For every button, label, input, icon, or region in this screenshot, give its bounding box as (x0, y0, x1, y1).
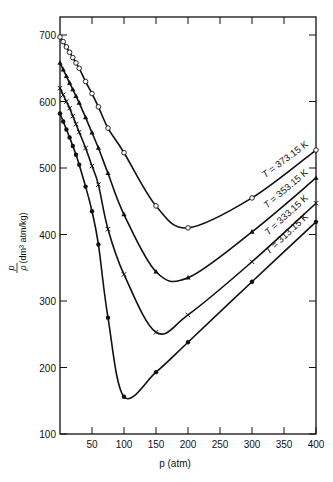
y-tick-label: 400 (39, 230, 56, 241)
x-axis-label: p (atm) (159, 458, 191, 469)
y-tick-label: 500 (39, 163, 56, 174)
x-tick-label: 300 (244, 439, 261, 450)
x-tick-label: 400 (308, 439, 325, 450)
series-labels: T = 373.15 KT = 353.15 KT = 333.15 KT = … (260, 138, 311, 256)
x-tick-label: 200 (180, 439, 197, 450)
y-axis-ticks: 100200300400500600700 (39, 30, 316, 440)
y-tick-label: 200 (39, 363, 56, 374)
x-tick-label: 100 (116, 439, 133, 450)
y-axis-label-unit: (dm³ atm/kg) (18, 212, 28, 263)
x-tick-label: 50 (86, 439, 98, 450)
series-line (60, 113, 316, 398)
y-axis-numerator: p (6, 265, 16, 271)
y-tick-label: 300 (39, 296, 56, 307)
chart-canvas: 100200300400500600700 501001502002503003… (0, 0, 333, 482)
x-tick-label: 350 (276, 439, 293, 450)
y-axis-denominator: ρ (18, 265, 28, 271)
x-tick-label: 250 (212, 439, 229, 450)
y-tick-label: 700 (39, 30, 56, 41)
x-tick-label: 150 (148, 439, 165, 450)
y-tick-label: 600 (39, 97, 56, 108)
y-axis-label: (dm³ atm/kg) (18, 212, 28, 263)
y-tick-label: 100 (39, 429, 56, 440)
